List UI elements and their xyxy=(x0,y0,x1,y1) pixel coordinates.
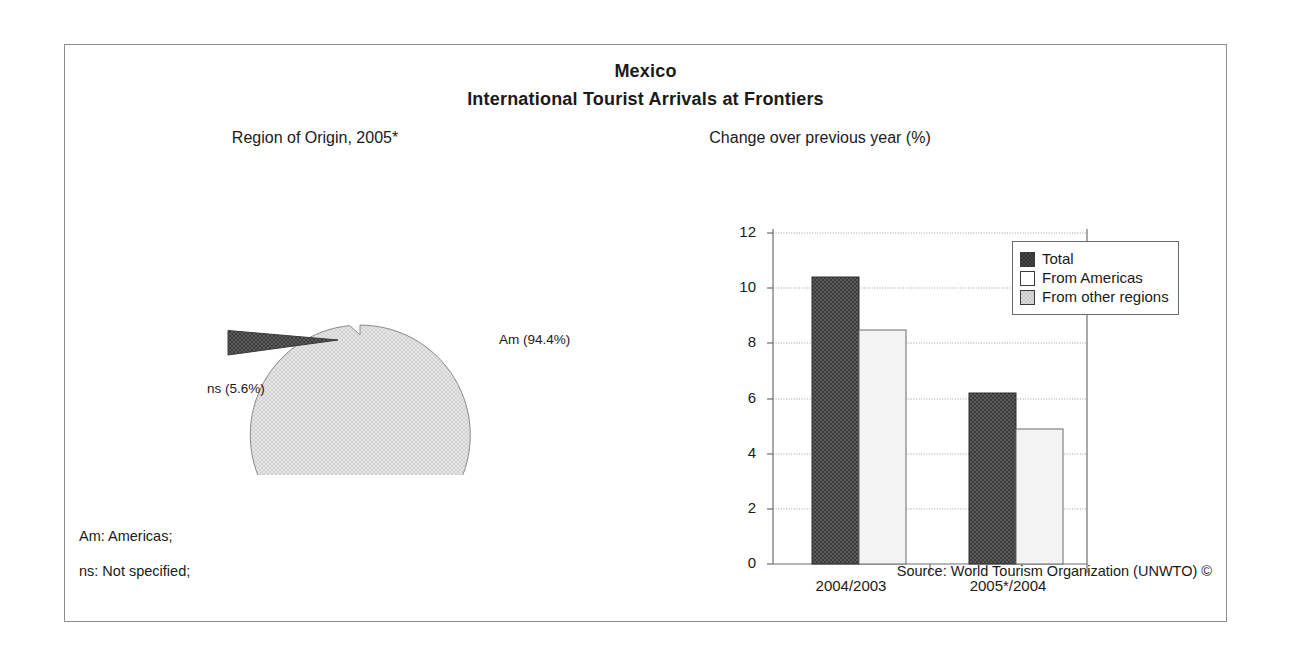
bar-total-2005 xyxy=(969,393,1016,564)
x-tick-label-2005-2004: 2005*/2004 xyxy=(928,577,1088,594)
bar-americas-2004 xyxy=(859,330,906,564)
footnote-ns: ns: Not specified; xyxy=(79,563,190,579)
x-tick-label-2004-2003: 2004/2003 xyxy=(771,577,931,594)
pie-chart: Am (94.4%) ns (5.6%) xyxy=(145,175,565,475)
bar-chart-title: Change over previous year (%) xyxy=(625,129,1015,147)
y-tick-marks xyxy=(767,233,773,564)
page-subtitle: International Tourist Arrivals at Fronti… xyxy=(65,89,1226,110)
y-tick-label-0: 0 xyxy=(726,554,756,571)
legend-item-from-americas[interactable]: From Americas xyxy=(1020,270,1169,286)
bar-americas-2005 xyxy=(1016,429,1063,564)
footnote-am: Am: Americas; xyxy=(79,528,172,544)
legend-swatch-from-other-regions xyxy=(1020,290,1035,305)
bar-total-2004 xyxy=(812,277,859,564)
chart-figure-frame: Mexico International Tourist Arrivals at… xyxy=(64,44,1227,622)
legend-item-total[interactable]: Total xyxy=(1020,251,1169,267)
legend-label-total: Total xyxy=(1042,251,1074,267)
y-tick-label-6: 6 xyxy=(726,389,756,406)
source-note: Source: World Tourism Organization (UNWT… xyxy=(897,563,1212,579)
y-tick-label-8: 8 xyxy=(726,333,756,350)
pie-chart-svg xyxy=(145,175,565,475)
pie-label-am: Am (94.4%) xyxy=(499,332,570,347)
pie-chart-title: Region of Origin, 2005* xyxy=(145,129,485,147)
legend-item-from-other-regions[interactable]: From other regions xyxy=(1020,289,1169,305)
legend-label-from-americas: From Americas xyxy=(1042,270,1143,286)
pie-label-ns: ns (5.6%) xyxy=(207,381,265,396)
legend-swatch-total xyxy=(1020,252,1035,267)
page-title: Mexico xyxy=(65,61,1226,82)
y-tick-label-10: 10 xyxy=(726,278,756,295)
y-tick-label-12: 12 xyxy=(726,223,756,240)
legend-label-from-other-regions: From other regions xyxy=(1042,289,1169,305)
legend-swatch-from-americas xyxy=(1020,271,1035,286)
y-tick-label-4: 4 xyxy=(726,444,756,461)
bar-chart: 12 10 8 6 4 2 0 2004/2003 2005*/2004 Tot… xyxy=(640,165,1220,585)
y-tick-label-2: 2 xyxy=(726,499,756,516)
bar-chart-legend: Total From Americas From other regions xyxy=(1012,241,1179,315)
